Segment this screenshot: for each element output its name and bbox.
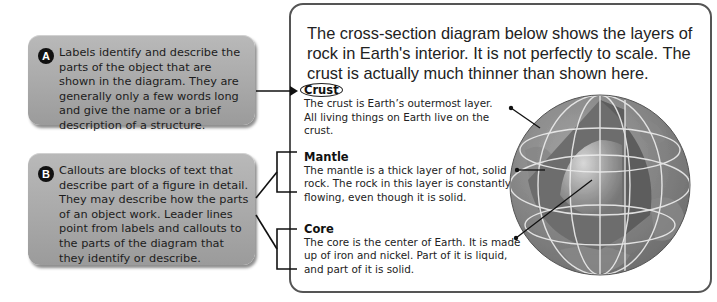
globe-icon [510,95,690,275]
earth-cross-section-illustration [0,0,717,302]
callout-connector [256,152,297,269]
